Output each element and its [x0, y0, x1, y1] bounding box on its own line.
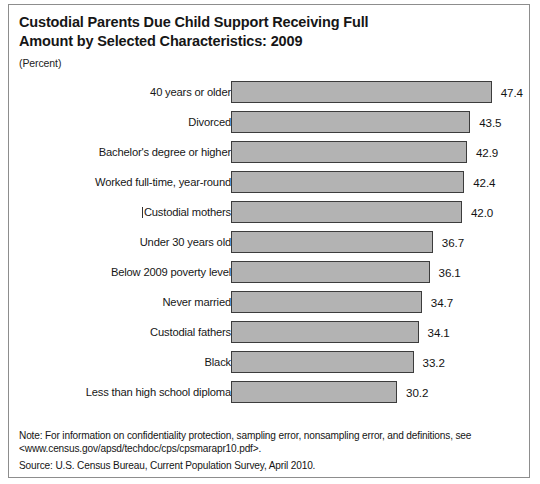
bar-category-label: Divorced [188, 116, 231, 128]
chart-title: Custodial Parents Due Child Support Rece… [19, 13, 519, 51]
bar-row: Custodial mothers42.0 [9, 201, 529, 223]
bar-category-label: Custodial mothers [142, 206, 231, 218]
bar-rect [231, 231, 433, 253]
chart-subtitle-units: (Percent) [19, 57, 519, 69]
bar-rect [231, 261, 430, 283]
bar-value-label: 36.1 [439, 266, 461, 279]
bar-value-label: 42.9 [476, 146, 498, 159]
bar-row: Bachelor's degree or higher42.9 [9, 141, 529, 163]
bar-chart-plot-area: 40 years or older47.4Divorced43.5Bachelo… [9, 77, 529, 411]
bar-track: 42.0 [231, 201, 529, 223]
bar-track: 36.1 [231, 261, 529, 283]
bar-row: Worked full-time, year-round42.4 [9, 171, 529, 193]
bar-row: Divorced43.5 [9, 111, 529, 133]
bar-category-label: Custodial fathers [150, 326, 231, 338]
bar-row: Custodial fathers34.1 [9, 321, 529, 343]
bar-row: Never married34.7 [9, 291, 529, 313]
bar-rect [231, 291, 422, 313]
bar-category-label: Worked full-time, year-round [95, 176, 231, 188]
text-caret-artifact [142, 207, 143, 218]
footnote-source: Source: U.S. Census Bureau, Current Popu… [19, 459, 519, 472]
bar-row: Under 30 years old36.7 [9, 231, 529, 253]
bar-category-label: Bachelor's degree or higher [99, 146, 231, 158]
figure-frame: Custodial Parents Due Child Support Rece… [8, 4, 530, 478]
bar-track: 34.1 [231, 321, 529, 343]
bar-value-label: 30.2 [406, 386, 428, 399]
bar-category-label: Never married [162, 296, 231, 308]
bar-rect [231, 321, 419, 343]
bar-rect [231, 351, 414, 373]
bar-row: Black33.2 [9, 351, 529, 373]
bar-category-label: Under 30 years old [140, 236, 231, 248]
bar-track: 42.9 [231, 141, 529, 163]
bar-rect [231, 171, 464, 193]
bar-rect [231, 111, 470, 133]
bar-row: 40 years or older47.4 [9, 81, 529, 103]
bar-category-label: Black [205, 356, 231, 368]
bar-track: 42.4 [231, 171, 529, 193]
bar-rect [231, 201, 462, 223]
footnote-note: Note: For information on confidentiality… [19, 429, 519, 456]
bar-track: 33.2 [231, 351, 529, 373]
bar-value-label: 42.0 [471, 206, 493, 219]
bar-row: Below 2009 poverty level36.1 [9, 261, 529, 283]
bar-category-label: 40 years or older [150, 86, 231, 98]
bar-value-label: 36.7 [442, 236, 464, 249]
bar-category-label: Below 2009 poverty level [111, 266, 231, 278]
bar-value-label: 47.4 [501, 86, 523, 99]
bar-row: Less than high school diploma30.2 [9, 381, 529, 403]
bar-rect [231, 141, 467, 163]
bar-rect [231, 381, 397, 403]
bar-value-label: 33.2 [423, 356, 445, 369]
bar-value-label: 42.4 [473, 176, 495, 189]
bar-track: 36.7 [231, 231, 529, 253]
bar-track: 47.4 [231, 81, 529, 103]
bar-value-label: 34.1 [428, 326, 450, 339]
figure-inner: Custodial Parents Due Child Support Rece… [9, 5, 529, 477]
bar-value-label: 34.7 [431, 296, 453, 309]
bar-track: 34.7 [231, 291, 529, 313]
bar-value-label: 43.5 [479, 116, 501, 129]
bar-track: 30.2 [231, 381, 529, 403]
bar-category-label: Less than high school diploma [86, 386, 231, 398]
bar-rect [231, 81, 492, 103]
bar-track: 43.5 [231, 111, 529, 133]
footnotes: Note: For information on confidentiality… [19, 429, 519, 472]
